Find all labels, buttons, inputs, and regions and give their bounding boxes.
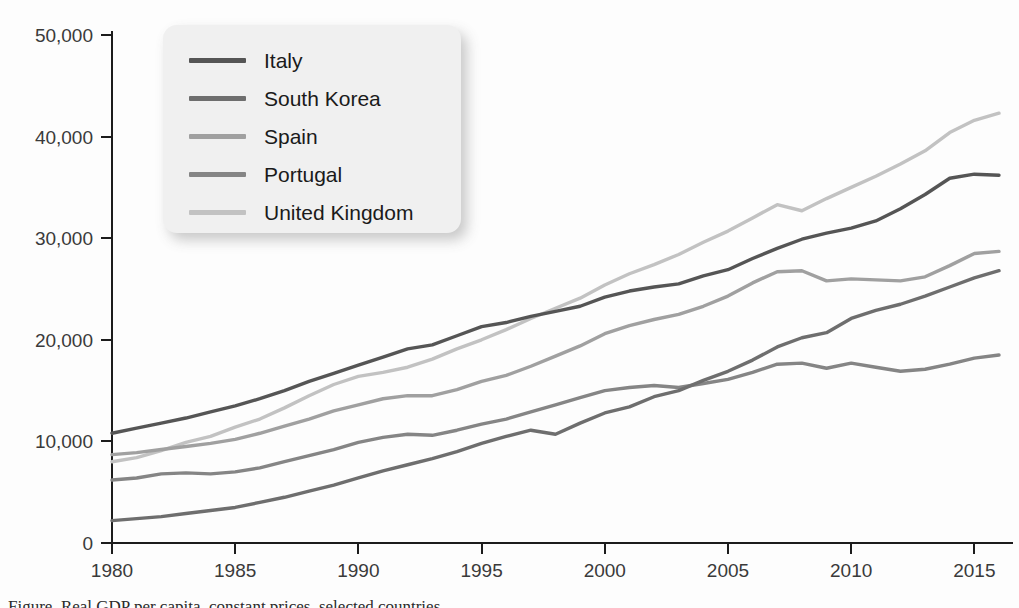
- x-axis-tick-label: 1980: [91, 560, 133, 581]
- line-chart: 010,00020,00030,00040,00050,000198019851…: [0, 0, 1019, 608]
- x-axis-tick-label: 1990: [337, 560, 379, 581]
- x-axis-tick-label: 2005: [707, 560, 749, 581]
- legend-swatch-icon: [189, 58, 246, 63]
- y-axis-tick-label: 0: [82, 533, 93, 554]
- x-axis-tick-label: 2010: [830, 560, 872, 581]
- series-line-portugal[interactable]: [112, 355, 999, 480]
- y-axis-tick-label: 30,000: [35, 228, 93, 249]
- legend-swatch-icon: [189, 96, 246, 101]
- legend-item-label: United Kingdom: [264, 202, 413, 223]
- legend-item[interactable]: Portugal: [189, 155, 461, 193]
- x-axis-tick-label: 1985: [214, 560, 256, 581]
- legend-item[interactable]: Italy: [189, 41, 461, 79]
- chart-container: 010,00020,00030,00040,00050,000198019851…: [0, 0, 1019, 608]
- x-axis-tick-label: 1995: [460, 560, 502, 581]
- legend-swatch-icon: [189, 210, 246, 215]
- y-axis-tick-label: 20,000: [35, 330, 93, 351]
- chart-legend: Italy South Korea Spain Portugal United …: [163, 25, 461, 233]
- legend-item-label: Spain: [264, 126, 318, 147]
- legend-item-label: Portugal: [264, 164, 342, 185]
- y-axis-tick-label: 50,000: [35, 25, 93, 46]
- legend-swatch-icon: [189, 134, 246, 139]
- legend-item-label: South Korea: [264, 88, 381, 109]
- figure-caption: Figure. Real GDP per capita, constant pr…: [8, 597, 648, 608]
- legend-swatch-icon: [189, 172, 246, 177]
- y-axis-tick-label: 10,000: [35, 431, 93, 452]
- legend-item[interactable]: United Kingdom: [189, 193, 461, 231]
- x-axis-tick-label: 2000: [584, 560, 626, 581]
- legend-item[interactable]: South Korea: [189, 79, 461, 117]
- y-axis-tick-label: 40,000: [35, 127, 93, 148]
- legend-item[interactable]: Spain: [189, 117, 461, 155]
- x-axis-tick-label: 2015: [953, 560, 995, 581]
- legend-item-label: Italy: [264, 50, 303, 71]
